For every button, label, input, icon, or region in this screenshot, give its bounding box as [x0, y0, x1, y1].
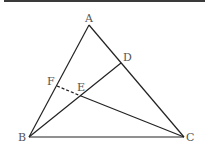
triangle-diagram: A D F E B C	[0, 0, 211, 156]
segment-bd	[29, 63, 121, 137]
label-a: A	[84, 12, 94, 25]
segment-ec	[81, 96, 184, 137]
label-e: E	[77, 81, 85, 94]
label-f: F	[47, 75, 55, 88]
label-b: B	[18, 131, 26, 144]
label-d: D	[123, 51, 132, 64]
label-c: C	[186, 131, 194, 144]
segment-ac	[89, 25, 184, 137]
